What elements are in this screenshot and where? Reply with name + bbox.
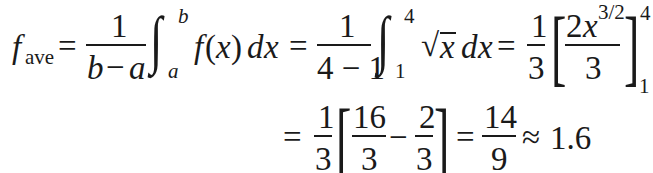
minus-sign: − (389, 121, 408, 154)
lhs-function: f (12, 31, 21, 64)
lhs-subscript: ave (25, 47, 54, 68)
fraction-denominator: 3 (315, 143, 332, 173)
bracket-close: ] (434, 98, 449, 173)
fraction-bar (415, 135, 433, 137)
equals-sign: = (289, 30, 308, 63)
evaluation-upper-limit: 4 (640, 3, 651, 24)
differential-d: d (461, 31, 478, 64)
fraction-bar (317, 44, 371, 46)
fraction-numerator: 16 (353, 101, 386, 134)
differential-x: x (478, 31, 493, 64)
fraction-denominator-b: b (87, 52, 104, 85)
fraction-bar (565, 44, 620, 46)
integral-upper-limit: b (178, 6, 189, 27)
differential-d: d (247, 31, 264, 64)
equals-sign: = (497, 30, 516, 63)
bracket-open: [ (336, 98, 351, 173)
fraction-numerator: 1 (318, 101, 335, 134)
fraction-bar (86, 44, 146, 46)
fraction-numerator: 1 (339, 10, 356, 43)
fraction-denominator-a: a (129, 52, 146, 85)
integral-sign: ∫ (150, 8, 162, 72)
equals-sign: = (283, 121, 302, 154)
integrand-x: x (216, 31, 231, 64)
fraction-numerator: 1 (111, 10, 128, 43)
fraction-bar (314, 135, 332, 137)
approx-sign: ≈ (522, 121, 540, 154)
integral-lower-limit: a (168, 61, 179, 82)
paren-open: ( (205, 31, 216, 64)
fraction-denominator: 4 − 1 (317, 52, 385, 85)
fraction-bar (352, 135, 386, 137)
integrand-x: x (440, 31, 455, 64)
fraction-numerator-variable: x (583, 10, 598, 43)
integral-lower-limit: 1 (395, 61, 406, 82)
fraction-numerator-coefficient: 2 (566, 10, 583, 43)
fraction-denominator: 3 (361, 143, 378, 173)
evaluation-lower-limit: 1 (639, 76, 650, 97)
integrand-f: f (194, 31, 203, 64)
fraction-denominator: 3 (585, 52, 602, 85)
bracket-close: ] (624, 6, 639, 90)
integral-upper-limit: 4 (404, 6, 415, 27)
fraction-bar (527, 44, 545, 46)
equals-sign: = (456, 121, 475, 154)
sqrt-sign: √ (421, 29, 439, 62)
equals-sign: = (58, 30, 77, 63)
fraction-denominator: 3 (416, 143, 433, 173)
fraction-denominator: 9 (491, 143, 508, 173)
differential-x: x (264, 31, 279, 64)
paren-close: ) (231, 31, 242, 64)
fraction-numerator: 1 (531, 10, 548, 43)
bracket-open: [ (551, 6, 566, 90)
fraction-numerator: 14 (484, 101, 517, 134)
fraction-denominator-minus: − (106, 51, 125, 84)
integral-sign: ∫ (377, 8, 389, 72)
fraction-bar (482, 135, 516, 137)
fraction-denominator: 3 (528, 52, 545, 85)
exponent: 3/2 (598, 2, 625, 23)
result-value: 1.6 (550, 122, 591, 155)
